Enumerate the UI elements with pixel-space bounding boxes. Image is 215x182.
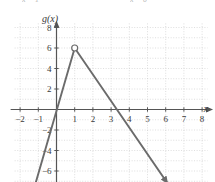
y-axis-label: g(x) xyxy=(42,13,59,25)
curve-segment-right-branch xyxy=(75,48,168,182)
x-tick-label: 3 xyxy=(109,114,114,124)
coordinate-plane: −2−1123456788642−2−4−6−8 g(x) x xyxy=(0,0,215,182)
x-tick-label: 5 xyxy=(145,114,150,124)
open-circle-marker xyxy=(72,45,78,51)
x-tick-label: 8 xyxy=(200,114,205,124)
y-tick-label: 6 xyxy=(47,43,52,53)
y-tick-label: −6 xyxy=(42,166,52,176)
x-tick-label: −1 xyxy=(34,114,44,124)
graph-figure: x = 1 x = 0 −2−1123456788642−2−4−6−8 g(x… xyxy=(0,0,215,182)
x-tick-label: 7 xyxy=(182,114,187,124)
y-tick-label: 4 xyxy=(47,64,52,74)
x-tick-label: −2 xyxy=(15,114,25,124)
x-tick-label: 4 xyxy=(127,114,132,124)
x-axis-label: x xyxy=(203,103,209,114)
open-circle-point xyxy=(72,45,78,51)
y-tick-label: 2 xyxy=(47,84,52,94)
y-tick-label: 8 xyxy=(47,23,52,33)
x-tick-label: 1 xyxy=(72,114,77,124)
x-tick-label: 6 xyxy=(163,114,168,124)
x-tick-label: 2 xyxy=(91,114,96,124)
